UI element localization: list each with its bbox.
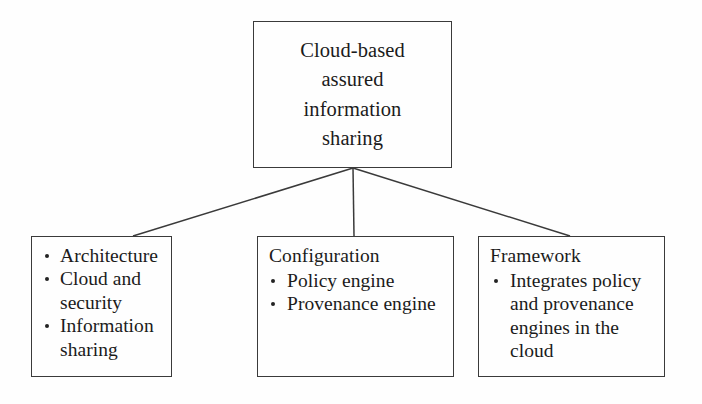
list-item: Architecture [41,244,165,267]
node-root-text: Cloud-based assured information sharing [292,36,413,152]
diagram-canvas: Cloud-based assured information sharing … [0,0,702,404]
list-item: Cloud and security [41,267,165,314]
connector-root-to-framework [353,168,570,236]
node-root-line-1: Cloud-based [300,39,405,61]
node-root-line-2: assured [321,68,383,90]
configuration-bullet-list: Policy engine Provenance engine [267,269,447,316]
node-configuration: Configuration Policy engine Provenance e… [257,236,454,377]
list-item: Integrates policy and provenance engines… [488,269,658,363]
connector-root-to-architecture [133,168,353,236]
framework-bullet-list: Integrates policy and provenance engines… [488,269,658,363]
node-cloud-based-assured-information-sharing: Cloud-based assured information sharing [253,21,452,168]
node-architecture: Architecture Cloud and security Informat… [31,236,172,377]
list-item: Provenance engine [267,292,447,315]
node-framework-heading: Framework [490,244,658,268]
node-root-line-4: sharing [322,127,383,149]
node-framework: Framework Integrates policy and provenan… [478,236,665,377]
node-root-line-3: information [304,98,402,120]
node-configuration-heading: Configuration [269,244,447,268]
list-item: Policy engine [267,269,447,292]
connector-root-to-configuration [353,168,354,236]
list-item: Information sharing [41,314,165,361]
architecture-bullet-list: Architecture Cloud and security Informat… [41,244,165,361]
